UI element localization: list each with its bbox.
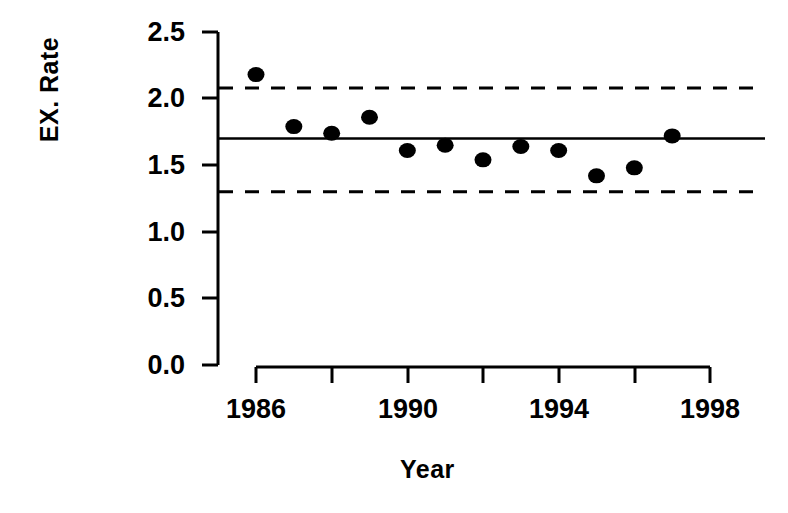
- y-axis-label-wrapper: EX. Rate: [0, 75, 174, 115]
- x-axis-ticks: [256, 367, 710, 383]
- data-point: [664, 128, 681, 143]
- y-tick-label-1-0: 1.0: [95, 217, 185, 248]
- data-point: [475, 152, 492, 167]
- y-axis-ticks: [202, 32, 218, 365]
- data-point-group: [248, 67, 681, 183]
- y-tick-label-1-5: 1.5: [95, 150, 185, 181]
- data-point: [361, 110, 378, 125]
- x-tick-label-1990: 1990: [353, 394, 463, 425]
- data-point: [285, 119, 302, 134]
- x-tick-label-1998: 1998: [655, 394, 765, 425]
- data-point: [248, 67, 265, 82]
- data-point: [399, 143, 416, 158]
- data-point: [626, 160, 643, 175]
- y-axis-label: EX. Rate: [35, 0, 64, 215]
- x-axis-label: Year: [400, 455, 455, 484]
- data-point: [437, 138, 454, 153]
- data-point: [512, 139, 529, 154]
- data-point: [323, 126, 340, 141]
- y-tick-label-0-5: 0.5: [95, 283, 185, 314]
- data-point: [588, 168, 605, 183]
- y-tick-label-0-0: 0.0: [95, 350, 185, 381]
- y-tick-label-2-5: 2.5: [95, 17, 185, 48]
- x-tick-label-1994: 1994: [504, 394, 614, 425]
- x-tick-label-1986: 1986: [201, 394, 311, 425]
- data-point: [550, 143, 567, 158]
- chart-figure: 2.5 2.0 1.5 1.0 0.5 0.0 1986 1990 1994 1…: [0, 0, 788, 513]
